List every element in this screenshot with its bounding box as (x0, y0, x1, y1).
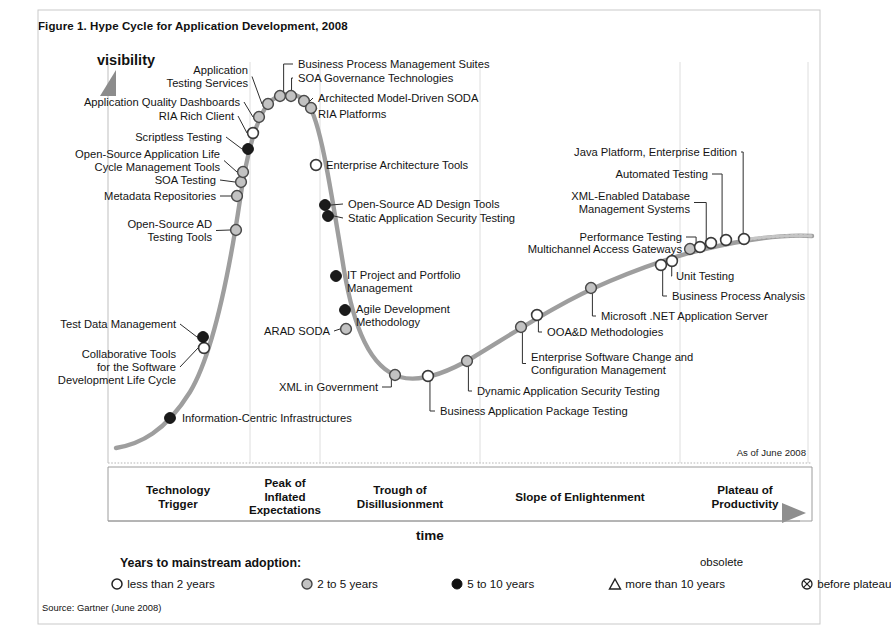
point-label: Java Platform, Enterprise Edition (574, 146, 737, 159)
triangle-icon (608, 577, 622, 591)
point-label: Architected Model-Driven SODA (318, 92, 478, 105)
marker-26 (586, 283, 597, 294)
point-label: Metadata Repositories (104, 190, 216, 203)
marker-2 (198, 332, 209, 343)
crossed-circle-icon (800, 577, 814, 591)
point-label: XML-Enabled Database Management Systems (571, 190, 690, 216)
marker-24 (516, 322, 527, 333)
marker-8 (248, 128, 259, 139)
leader-line (220, 180, 235, 182)
marker-18 (331, 271, 342, 282)
legend-item-label: 2 to 5 years (314, 577, 378, 590)
filled-black-circle-icon (450, 577, 464, 591)
point-label: Business Process Management Suites (298, 58, 490, 71)
legend-item-0: less than 2 years (110, 576, 215, 591)
marker-11 (275, 91, 286, 102)
leader-line (252, 77, 262, 105)
phase-label-3: Slope of Enlightenment (490, 490, 670, 504)
marker-4 (232, 191, 243, 202)
point-label: Open-Source AD Design Tools (348, 198, 500, 211)
point-label: XML in Government (279, 381, 378, 394)
leader-line (224, 161, 237, 173)
legend-obsolete-line1: obsolete (700, 556, 743, 568)
point-label: Business Application Package Testing (440, 405, 628, 418)
as-of-note: As of June 2008 (737, 447, 806, 458)
leader-line (244, 102, 253, 117)
marker-25 (532, 310, 543, 321)
leader-line (226, 137, 242, 149)
marker-1 (199, 343, 210, 354)
source-note: Source: Gartner (June 2008) (42, 602, 161, 613)
marker-10 (263, 99, 274, 110)
marker-20 (341, 324, 352, 335)
point-label: Microsoft .NET Application Server (601, 310, 768, 323)
point-label: ARAD SODA (264, 325, 330, 338)
y-axis-label: visibility (97, 52, 155, 68)
light-gray-circle-icon (300, 577, 314, 591)
leader-line (180, 324, 197, 337)
marker-16 (320, 200, 331, 211)
marker-9 (254, 112, 265, 123)
phase-label-4: Plateau of Productivity (655, 483, 835, 510)
point-label: Business Process Analysis (672, 290, 805, 303)
point-label: Collaborative Tools for the Software Dev… (58, 348, 176, 387)
marker-17 (323, 211, 334, 222)
point-label: RIA Rich Client (159, 110, 234, 123)
marker-19 (340, 305, 351, 316)
marker-29 (685, 244, 696, 255)
legend-item-1: 2 to 5 years (300, 576, 378, 591)
marker-14 (306, 103, 317, 114)
legend-items: less than 2 years 2 to 5 years 5 to 10 y… (110, 576, 830, 598)
point-label: Automated Testing (616, 168, 708, 181)
marker-3 (231, 225, 242, 236)
marker-31 (706, 238, 717, 249)
point-label: SOA Governance Technologies (298, 72, 453, 85)
point-label: Unit Testing (676, 270, 734, 283)
marker-23 (462, 356, 473, 367)
marker-6 (238, 167, 249, 178)
point-label: Open-Source Application Life Cycle Manag… (75, 148, 220, 174)
point-label: Information-Centric Infrastructures (182, 412, 352, 425)
point-label: RIA Platforms (318, 108, 386, 121)
x-axis-label: time (416, 528, 444, 543)
marker-27 (656, 260, 667, 271)
open-circle-icon (110, 577, 124, 591)
marker-0 (165, 413, 176, 424)
leader-line (334, 329, 340, 331)
point-label: Test Data Management (60, 318, 176, 331)
point-label: OOA&D Methodologies (547, 326, 663, 339)
point-label: Static Application Security Testing (348, 212, 515, 225)
legend-item-label: less than 2 years (124, 577, 215, 590)
legend-item-label: more than 10 years (622, 577, 725, 590)
point-label: Enterprise Architecture Tools (326, 159, 468, 172)
leader-line (738, 152, 743, 239)
marker-28 (667, 256, 678, 267)
point-label: Scriptless Testing (135, 131, 222, 144)
legend-item-4: before plateau (800, 576, 891, 591)
leader-line (238, 116, 247, 133)
point-label: Enterprise Software Change and Configura… (531, 351, 693, 377)
point-label: Agile Development Methodology (356, 303, 450, 329)
source-text: Source: Gartner (June 2008) (42, 602, 161, 613)
point-label: Performance Testing (580, 231, 682, 244)
marker-5 (236, 177, 247, 188)
marker-21 (390, 370, 401, 381)
leader-line (180, 348, 198, 367)
point-label: Application Testing Services (167, 64, 248, 90)
leader-line (310, 98, 313, 101)
leader-line (712, 174, 722, 240)
point-label: IT Project and Portfolio Management (347, 269, 461, 295)
point-label: Application Quality Dashboards (84, 96, 240, 109)
point-label: Dynamic Application Security Testing (477, 385, 660, 398)
point-label: Open-Source AD Testing Tools (127, 218, 212, 244)
marker-12 (286, 91, 297, 102)
marker-32 (721, 235, 732, 246)
legend-item-2: 5 to 10 years (450, 576, 534, 591)
marker-22 (423, 371, 434, 382)
point-label: Multichannel Access Gateways (528, 243, 682, 256)
leader-line (216, 230, 230, 231)
marker-33 (739, 234, 750, 245)
legend-title: Years to mainstream adoption: (120, 556, 301, 570)
marker-30 (695, 242, 706, 253)
legend-item-3: more than 10 years (608, 576, 725, 591)
